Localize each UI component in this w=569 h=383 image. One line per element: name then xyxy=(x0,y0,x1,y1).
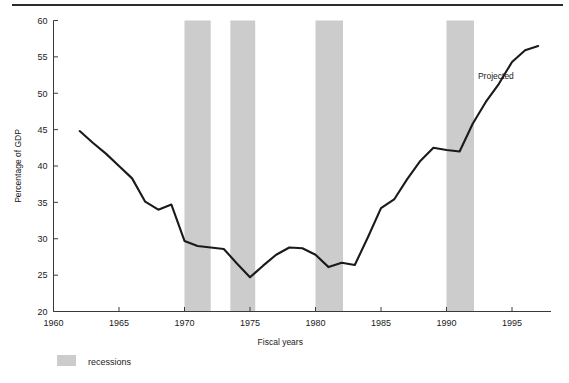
y-tick-label: 25 xyxy=(37,270,47,280)
y-tick-label: 35 xyxy=(37,198,47,208)
annotations-layer: Projected xyxy=(478,71,514,81)
x-tick-label: 1995 xyxy=(502,318,522,328)
y-tick-label: 40 xyxy=(37,161,47,171)
recession-band xyxy=(185,21,211,312)
y-tick-label: 55 xyxy=(37,52,47,62)
axis-titles-layer: Fiscal yearsPercentage of GDP xyxy=(13,129,303,347)
x-tick-label: 1960 xyxy=(43,318,63,328)
x-axis-title: Fiscal years xyxy=(258,337,303,347)
y-tick-label: 60 xyxy=(37,16,47,26)
y-tick-label: 50 xyxy=(37,89,47,99)
figure-container: 19601965197019751980198519901995 2025303… xyxy=(0,0,569,383)
y-tick-labels-layer: 202530354045505560 xyxy=(37,16,47,317)
y-tick-label: 45 xyxy=(37,125,47,135)
axes-layer xyxy=(54,21,552,312)
legend-layer: recessions xyxy=(57,355,132,367)
recession-band xyxy=(447,21,475,312)
x-tick-label: 1965 xyxy=(109,318,129,328)
x-tick-label: 1980 xyxy=(305,318,325,328)
legend-label-recessions: recessions xyxy=(88,357,132,367)
x-tick-label: 1990 xyxy=(436,318,456,328)
legend-swatch-recessions xyxy=(57,355,76,366)
y-axis-title: Percentage of GDP xyxy=(13,129,23,203)
projected-annotation: Projected xyxy=(478,71,514,81)
y-tick-label: 30 xyxy=(37,234,47,244)
x-tick-label: 1970 xyxy=(174,318,194,328)
recession-band xyxy=(230,21,255,312)
x-tick-labels-layer: 19601965197019751980198519901995 xyxy=(43,318,522,328)
axis-ticks-layer xyxy=(54,21,513,312)
x-tick-label: 1985 xyxy=(371,318,391,328)
chart-canvas: 19601965197019751980198519901995 2025303… xyxy=(0,0,569,383)
y-tick-label: 20 xyxy=(37,307,47,317)
x-tick-label: 1975 xyxy=(240,318,260,328)
